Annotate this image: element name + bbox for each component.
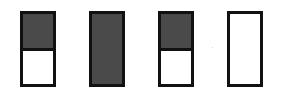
divider-line (161, 48, 191, 51)
fraction-bar-3 (158, 11, 194, 87)
stray-dot (212, 47, 213, 48)
fraction-bar-1 (20, 11, 56, 87)
fraction-bar-2 (89, 11, 125, 87)
divider-line (23, 48, 53, 51)
shaded-region (92, 14, 122, 84)
shaded-region (161, 14, 191, 49)
fraction-bar-4 (227, 11, 263, 87)
shaded-region (23, 14, 53, 49)
